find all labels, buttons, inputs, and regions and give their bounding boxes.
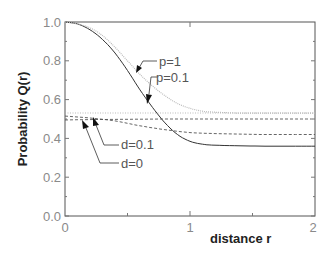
y-tick-0.2: 0.2 xyxy=(43,170,61,185)
y-axis-title: Probability Q(r) xyxy=(15,72,30,167)
y-tick-0.4: 0.4 xyxy=(43,131,61,146)
y-tick-1.0: 1.0 xyxy=(43,15,61,30)
series-d0-dashed xyxy=(65,119,315,120)
x-tick-0: 0 xyxy=(61,220,68,235)
y-tick-0.8: 0.8 xyxy=(43,53,61,68)
series-p1-dotted xyxy=(65,22,315,113)
x-axis-title: distance r xyxy=(210,231,271,246)
y-axis-ticks xyxy=(65,41,315,216)
series-p0.1-solid xyxy=(65,22,315,146)
x-tick-2: 2 xyxy=(309,220,316,235)
annotation-p1-label: p=1 xyxy=(159,54,181,69)
x-tick-1: 1 xyxy=(186,220,193,235)
annotation-d0.1: d=0.1 xyxy=(93,117,154,152)
y-tick-0.6: 0.6 xyxy=(43,92,61,107)
chart: 0.0 0.2 0.4 0.6 0.8 1.0 0 1 2 distance r… xyxy=(0,0,334,253)
annotation-d0.1-label: d=0.1 xyxy=(121,137,154,152)
y-tick-0: 0.0 xyxy=(43,209,61,224)
annotation-p0.1-label: p=0.1 xyxy=(156,70,189,85)
annotation-p0.1: p=0.1 xyxy=(146,70,189,104)
x-tick-labels: 0 1 2 xyxy=(61,220,316,235)
annotation-d0-label: d=0 xyxy=(121,156,143,171)
y-tick-labels: 0.0 0.2 0.4 0.6 0.8 1.0 xyxy=(43,15,61,224)
